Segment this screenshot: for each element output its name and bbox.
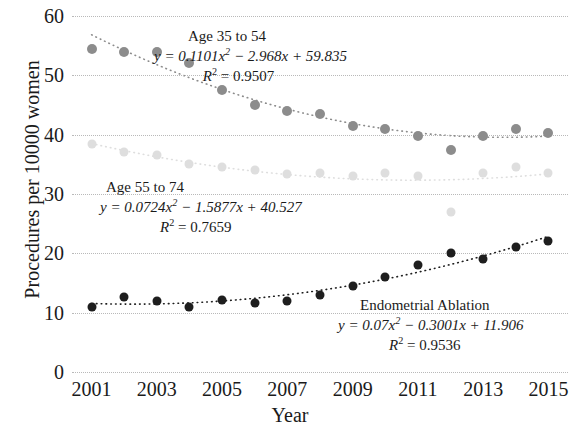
x-axis-tick-label: 2003	[137, 378, 177, 401]
data-point	[250, 298, 259, 307]
y-axis-tick-label: 50	[10, 64, 64, 87]
y-axis-tick-label: 0	[10, 361, 64, 384]
x-axis-tick-label: 2009	[333, 378, 373, 401]
annotation-r2: R2 = 0.9536	[338, 335, 524, 355]
data-point	[185, 302, 194, 311]
data-point	[413, 261, 422, 270]
annotation-label: Age 35 to 54	[154, 27, 347, 46]
gridline	[72, 372, 568, 373]
y-axis-tick-label: 20	[10, 242, 64, 265]
x-axis-tick-label: 2011	[398, 378, 437, 401]
data-point	[120, 292, 129, 301]
annotation-endometrial-ablation: Endometrial Ablation y = 0.07x2 − 0.3001…	[338, 296, 524, 355]
data-point	[446, 249, 455, 258]
annotation-equation: y = 0.07x2 − 0.3001x + 11.906	[338, 315, 524, 335]
data-point	[283, 296, 292, 305]
annotation-label: Age 55 to 74	[100, 178, 302, 197]
x-axis-tick-label: 2007	[267, 378, 307, 401]
x-axis-tick-label: 2001	[72, 378, 112, 401]
y-axis-tick-label: 30	[10, 183, 64, 206]
x-axis-tick-label: 2015	[528, 378, 568, 401]
annotation-age-55-74: Age 55 to 74 y = 0.0724x2 − 1.5877x + 40…	[100, 178, 302, 237]
data-point	[479, 255, 488, 264]
data-point	[544, 237, 553, 246]
x-axis-tick-label: 2013	[463, 378, 503, 401]
annotation-label: Endometrial Ablation	[338, 296, 524, 315]
data-point	[152, 296, 161, 305]
x-axis-title: Year	[0, 404, 580, 427]
data-point	[348, 281, 357, 290]
annotation-equation: y = 0.0724x2 − 1.5877x + 40.527	[100, 197, 302, 217]
data-point	[511, 243, 520, 252]
annotation-age-35-54: Age 35 to 54 y = 0.1101x2 − 2.968x + 59.…	[154, 27, 347, 86]
data-point	[218, 295, 227, 304]
data-point	[316, 290, 325, 299]
chart-figure: Procedures per 10000 women Year 01020304…	[0, 0, 580, 435]
x-axis-tick-label: 2005	[202, 378, 242, 401]
y-axis-tick-label: 40	[10, 123, 64, 146]
annotation-r2: R2 = 0.9507	[154, 66, 347, 86]
y-axis-tick-label: 10	[10, 301, 64, 324]
data-point	[87, 302, 96, 311]
data-point	[381, 273, 390, 282]
annotation-equation: y = 0.1101x2 − 2.968x + 59.835	[154, 46, 347, 66]
y-axis-tick-labels: 0102030405060	[0, 0, 64, 435]
annotation-r2: R2 = 0.7659	[100, 217, 302, 237]
y-axis-tick-label: 60	[10, 5, 64, 28]
